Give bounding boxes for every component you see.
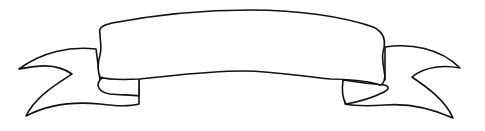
left-ribbon-fold bbox=[98, 78, 139, 96]
ribbon-banner-illustration bbox=[0, 0, 485, 131]
main-ribbon-band bbox=[98, 10, 385, 85]
